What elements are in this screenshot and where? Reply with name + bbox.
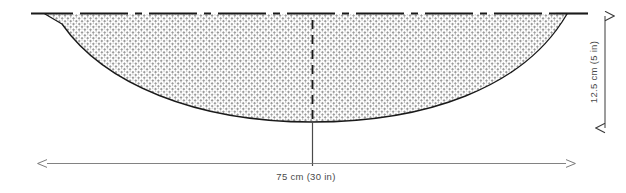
cross-section-diagram: 75 cm (30 in) 12.5 cm (5 in) — [0, 0, 626, 193]
width-dimension: 75 cm (30 in) — [47, 164, 566, 183]
width-dimension-label: 75 cm (30 in) — [276, 171, 335, 182]
depth-dimension: 12.5 cm (5 in) — [588, 16, 605, 128]
bowl-fill — [45, 14, 567, 122]
diagram-root: 75 cm (30 in) 12.5 cm (5 in) — [0, 0, 626, 193]
depth-dimension-label: 12.5 cm (5 in) — [588, 41, 599, 103]
bowl-cross-section — [45, 14, 567, 122]
